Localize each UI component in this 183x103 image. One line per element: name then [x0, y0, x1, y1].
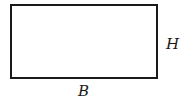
height-label: H [166, 37, 179, 52]
base-label: B [78, 84, 89, 99]
rectangle-shape [10, 4, 158, 79]
